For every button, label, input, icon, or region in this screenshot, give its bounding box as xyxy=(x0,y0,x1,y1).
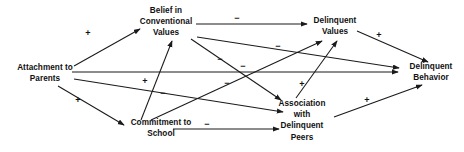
edge-peers-delbehavior xyxy=(334,85,422,117)
edge-attachment-commitment xyxy=(58,86,124,125)
edge-sign-attachment-belief: + xyxy=(83,29,93,38)
node-belief-in-conventional-values: Belief in Conventional Values xyxy=(129,5,203,39)
node-attachment-to-parents: Attachment to Parents xyxy=(3,62,87,84)
path-diagram: Attachment to Parents Belief in Conventi… xyxy=(0,0,464,152)
edge-sign-belief-delbehavior: − xyxy=(273,42,283,51)
edge-sign-commitment-belief: + xyxy=(140,77,150,86)
edge-sign-attachment-commitment: + xyxy=(73,96,83,105)
edge-delvalues-delbehavior xyxy=(357,31,428,62)
edge-sign-peers-delbehavior: + xyxy=(362,96,372,105)
edge-sign-commitment-delvalues: − xyxy=(222,79,232,88)
edge-sign-commitment-peers: − xyxy=(202,120,212,129)
edge-sign-belief-delvalues: − xyxy=(232,14,242,23)
edge-sign-delvalues-delbehavior: + xyxy=(374,31,384,40)
edge-sign-attachment-peers: − xyxy=(158,89,168,98)
node-delinquent-behavior: Delinquent Behavior xyxy=(400,61,462,83)
edge-sign-peers-delvalues: + xyxy=(297,80,307,89)
node-commitment-to-school: Commitment to School xyxy=(119,117,203,139)
node-delinquent-values: Delinquent Values xyxy=(304,15,366,37)
node-association-with-delinquent-peers: Association with Delinquent Peers xyxy=(269,98,335,143)
edge-sign-attachment-delbehavior: − xyxy=(238,62,248,71)
edge-sign-belief-peers: − xyxy=(215,55,225,64)
edge-peers-delvalues xyxy=(296,41,337,98)
